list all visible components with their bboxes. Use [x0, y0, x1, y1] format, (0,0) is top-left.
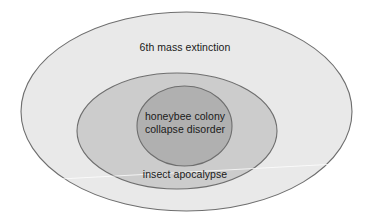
ellipse-honeybee-colony-collapse-disorder — [137, 86, 232, 166]
diagram-canvas: 6th mass extinction honeybee colony coll… — [0, 0, 370, 220]
nested-venn-diagram — [0, 0, 370, 220]
